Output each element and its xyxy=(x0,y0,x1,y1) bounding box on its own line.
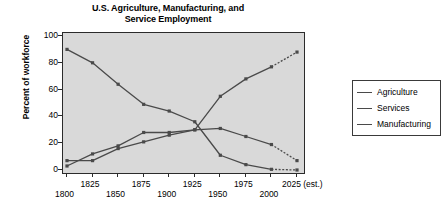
data-point-marker xyxy=(295,50,298,53)
legend-item-label: Services xyxy=(377,103,410,113)
data-point-marker xyxy=(91,152,94,155)
x-axis-tick-label: 2000 xyxy=(259,190,278,199)
x-axis-tick-label: 1925 xyxy=(183,180,202,189)
legend-line-icon xyxy=(357,92,372,93)
data-point-marker xyxy=(168,131,171,134)
x-axis-tick-label: 1875 xyxy=(132,180,151,189)
legend-item-label: Agriculture xyxy=(377,87,418,97)
data-point-marker xyxy=(117,83,120,86)
data-point-marker xyxy=(193,128,196,131)
legend-line-icon xyxy=(357,124,372,125)
plot-area xyxy=(62,32,305,174)
x-axis-tick-label: 1900 xyxy=(157,190,176,199)
chart-title: U.S. Agriculture, Manufacturing, and Ser… xyxy=(48,3,288,25)
series-line-services xyxy=(67,67,271,161)
data-point-marker xyxy=(142,131,145,134)
x-axis-tick-label: 2025 (est.) xyxy=(282,180,323,189)
data-point-marker xyxy=(295,168,298,171)
data-point-marker xyxy=(91,159,94,162)
chart-canvas: U.S. Agriculture, Manufacturing, and Ser… xyxy=(0,0,447,212)
x-axis-tick-label: 1950 xyxy=(208,190,227,199)
y-axis-tick-label: 0 xyxy=(14,165,58,173)
legend-item-label: Manufacturing xyxy=(377,119,431,129)
data-point-marker xyxy=(142,103,145,106)
x-axis-tick-label: 1850 xyxy=(106,190,125,199)
data-point-marker xyxy=(270,168,273,171)
y-axis-tick-label: 20 xyxy=(14,138,58,146)
y-axis-tick-label: 60 xyxy=(14,85,58,93)
data-point-marker xyxy=(270,143,273,146)
data-point-marker xyxy=(65,159,68,162)
data-point-marker xyxy=(193,120,196,123)
data-point-marker xyxy=(91,61,94,64)
chart-title-line-2: Service Employment xyxy=(48,14,288,25)
legend-item-agriculture[interactable]: Agriculture xyxy=(357,85,418,99)
data-point-marker xyxy=(219,154,222,157)
series-lines xyxy=(63,33,303,172)
data-point-marker xyxy=(65,164,68,167)
chart-legend: AgricultureServicesManufacturing xyxy=(352,80,441,136)
y-axis-tick-label: 100 xyxy=(14,31,58,39)
data-point-marker xyxy=(270,65,273,68)
series-estimate-segment-manufacturing xyxy=(271,145,297,161)
data-point-marker xyxy=(244,77,247,80)
data-point-marker xyxy=(244,135,247,138)
x-axis-tick-label: 1825 xyxy=(81,180,100,189)
x-axis-tick-label: 1975 xyxy=(234,180,253,189)
legend-line-icon xyxy=(357,108,372,109)
series-line-agriculture xyxy=(67,49,271,169)
data-point-marker xyxy=(219,95,222,98)
x-axis-tick-label: 1800 xyxy=(55,190,74,199)
data-point-marker xyxy=(168,109,171,112)
data-point-marker xyxy=(65,48,68,51)
y-axis-tick-label: 40 xyxy=(14,111,58,119)
legend-item-services[interactable]: Services xyxy=(357,101,410,115)
data-point-marker xyxy=(142,140,145,143)
series-estimate-segment-services xyxy=(271,52,297,67)
data-point-marker xyxy=(117,144,120,147)
y-axis-tick-label: 80 xyxy=(14,58,58,66)
chart-title-line-1: U.S. Agriculture, Manufacturing, and xyxy=(48,3,288,14)
series-estimate-segment-agriculture xyxy=(271,169,297,170)
legend-item-manufacturing[interactable]: Manufacturing xyxy=(357,117,431,131)
data-point-marker xyxy=(244,163,247,166)
data-point-marker xyxy=(295,159,298,162)
data-point-marker xyxy=(219,127,222,130)
